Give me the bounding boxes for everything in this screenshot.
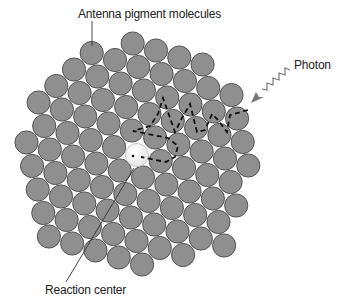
pigment-molecule bbox=[121, 32, 144, 55]
pigment-molecule bbox=[45, 74, 68, 97]
pigment-molecule bbox=[85, 152, 108, 175]
antenna-pigment-label: Antenna pigment molecules bbox=[78, 7, 221, 21]
pigment-molecule bbox=[26, 178, 49, 201]
pigment-molecule bbox=[119, 206, 142, 229]
pigment-molecule bbox=[55, 208, 78, 231]
pigment-molecule bbox=[173, 69, 196, 92]
pigment-molecule bbox=[103, 48, 126, 71]
pigment-molecule bbox=[15, 131, 38, 154]
pigment-molecule bbox=[97, 112, 120, 135]
pigment-molecule bbox=[27, 91, 50, 114]
pigment-molecule bbox=[114, 182, 137, 205]
pigment-molecule bbox=[231, 130, 254, 153]
pigment-molecule bbox=[161, 109, 184, 132]
pigment-molecule bbox=[207, 210, 230, 233]
photon-wave bbox=[262, 68, 290, 90]
pigment-molecule bbox=[96, 199, 119, 222]
pigment-molecule bbox=[131, 253, 154, 276]
pigment-molecule bbox=[220, 83, 243, 106]
pigment-molecule bbox=[49, 185, 72, 208]
pigment-molecule bbox=[219, 170, 242, 193]
pigment-molecule bbox=[125, 229, 148, 252]
antenna-complex-diagram: Antenna pigment molecules Photon Reactio… bbox=[0, 0, 344, 304]
pigment-molecule bbox=[132, 79, 155, 102]
pigment-molecule bbox=[68, 81, 91, 104]
pigment-molecule bbox=[144, 126, 167, 149]
pigment-molecule bbox=[190, 140, 213, 163]
pigment-molecule bbox=[184, 203, 207, 226]
pigment-molecule bbox=[20, 154, 43, 177]
pigment-molecule bbox=[62, 58, 85, 81]
pigment-molecule bbox=[167, 133, 190, 156]
pigment-molecule bbox=[67, 168, 90, 191]
pigment-molecule bbox=[196, 163, 219, 186]
pigment-molecule bbox=[191, 53, 214, 76]
pigment-molecule bbox=[225, 194, 248, 217]
pigment-molecule bbox=[33, 114, 56, 137]
pigment-molecule bbox=[50, 98, 73, 121]
pigment-molecule bbox=[127, 55, 150, 78]
pigment-molecule bbox=[172, 156, 195, 179]
pigment-molecule bbox=[156, 86, 179, 109]
pigment-molecule bbox=[91, 88, 114, 111]
pigment-molecule bbox=[201, 187, 224, 210]
pigment-molecule bbox=[213, 234, 236, 257]
pigment-molecule bbox=[73, 192, 96, 215]
reaction-center-label: Reaction center bbox=[45, 283, 126, 297]
pigment-molecule bbox=[143, 213, 166, 236]
pigment-molecule bbox=[102, 222, 125, 245]
pigment-molecule bbox=[178, 180, 201, 203]
pigment-molecule bbox=[213, 147, 236, 170]
pigment-molecule bbox=[115, 95, 138, 118]
pigment-molecule bbox=[84, 239, 107, 262]
pigment-molecule bbox=[237, 154, 260, 177]
pigment-molecule bbox=[37, 225, 60, 248]
pigment-molecule bbox=[74, 105, 97, 128]
photon-label: Photon bbox=[294, 58, 331, 72]
pigment-molecule bbox=[109, 72, 132, 95]
diagram-canvas bbox=[0, 0, 344, 304]
pigment-molecule bbox=[155, 173, 178, 196]
pigment-molecule bbox=[32, 201, 55, 224]
pigment-molecule bbox=[56, 121, 79, 144]
reaction-center-pointer-dot bbox=[132, 155, 135, 158]
pigment-molecule bbox=[148, 236, 171, 259]
pigment-molecule bbox=[120, 119, 143, 142]
reaction-center-molecule bbox=[125, 143, 148, 166]
photon-arrowhead bbox=[251, 92, 264, 103]
pigment-molecule bbox=[61, 232, 84, 255]
pigment-molecule bbox=[144, 39, 167, 62]
pigment-molecule bbox=[79, 128, 102, 151]
pigment-molecule bbox=[131, 166, 154, 189]
pigment-molecule bbox=[38, 138, 61, 161]
pigment-molecule bbox=[168, 46, 191, 69]
pigment-molecule bbox=[103, 135, 126, 158]
pigment-molecule bbox=[208, 123, 231, 146]
pigment-molecule bbox=[166, 220, 189, 243]
pigment-molecule bbox=[62, 145, 85, 168]
pigment-molecule bbox=[202, 100, 225, 123]
pigment-molecule bbox=[172, 243, 195, 266]
pigment-molecule bbox=[78, 215, 101, 238]
pigment-molecule bbox=[137, 189, 160, 212]
pigment-molecule bbox=[150, 62, 173, 85]
pigment-molecule bbox=[44, 161, 67, 184]
photon-arrow-icon bbox=[251, 68, 290, 103]
pigment-molecule bbox=[189, 227, 212, 250]
pigment-molecule bbox=[90, 175, 113, 198]
pigment-molecule bbox=[197, 76, 220, 99]
pigment-molecule bbox=[160, 196, 183, 219]
pigment-molecule bbox=[86, 65, 109, 88]
pigment-molecule bbox=[107, 246, 130, 269]
